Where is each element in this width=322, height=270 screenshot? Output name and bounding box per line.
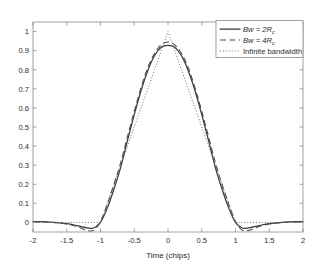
y-tick-label: 1: [25, 27, 29, 36]
y-tick-label: 0.5: [18, 123, 29, 132]
chart-plot: -2-1.5-1-0.500.511.5200.10.20.30.40.50.6…: [0, 0, 322, 270]
y-tick-label: 0.4: [18, 142, 29, 151]
tick-labels-layer: -2-1.5-1-0.500.511.5200.10.20.30.40.50.6…: [18, 27, 305, 245]
series-line-2: [33, 32, 303, 223]
x-tick-label: -1: [97, 236, 104, 245]
series-line-1: [33, 42, 303, 231]
series-line-0: [33, 45, 303, 228]
y-tick-label: 0.6: [18, 104, 29, 113]
curves-layer: [33, 32, 303, 231]
x-tick-label: 2: [301, 236, 305, 245]
legend-label-subscript: c: [272, 29, 275, 35]
x-tick-label: 0.5: [196, 236, 207, 245]
x-tick-label: 0: [166, 236, 170, 245]
y-tick-label: 0.9: [18, 46, 29, 55]
y-tick-label: 0.1: [18, 199, 29, 208]
x-axis-title: Time (chips): [146, 251, 190, 260]
x-tick-label: -1.5: [60, 236, 73, 245]
y-tick-label: 0.7: [18, 85, 29, 94]
figure-canvas: -2-1.5-1-0.500.511.5200.10.20.30.40.50.6…: [0, 0, 322, 270]
x-tick-label: -2: [30, 236, 37, 245]
legend-label-2: Infinite bandwidth: [243, 47, 302, 56]
chart-legend: Bw = 2RcBw = 4RcInfinite bandwidth: [216, 21, 303, 58]
x-tick-label: 1.5: [264, 236, 275, 245]
x-tick-label: -0.5: [128, 236, 141, 245]
legend-label-0: Bw = 2Rc: [243, 25, 275, 35]
y-tick-label: 0: [25, 218, 29, 227]
y-tick-label: 0.8: [18, 66, 29, 75]
y-tick-label: 0.3: [18, 161, 29, 170]
legend-label-1: Bw = 4Rc: [243, 36, 275, 46]
legend-label-subscript: c: [272, 40, 275, 46]
x-tick-label: 1: [233, 236, 237, 245]
y-tick-label: 0.2: [18, 180, 29, 189]
